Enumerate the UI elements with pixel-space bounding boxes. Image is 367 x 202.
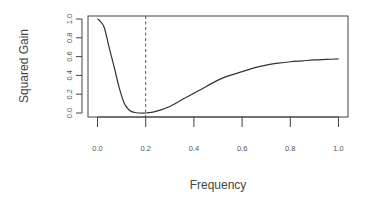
x-axis-title: Frequency	[190, 178, 247, 192]
y-tick-label: 0.2	[65, 89, 74, 99]
y-tick-label: 0.0	[65, 108, 74, 118]
plot-frame	[88, 16, 348, 117]
x-tick-label: 0.2	[140, 144, 150, 153]
y-tick-label: 0.6	[65, 51, 74, 61]
x-tick-label: 0.4	[189, 144, 199, 153]
squared-gain-chart: Squared Gain Frequency 0.00.20.40.60.81.…	[0, 0, 367, 202]
y-tick-label: 0.4	[65, 70, 74, 80]
x-tick-label: 1.0	[333, 144, 343, 153]
x-tick-label: 0.0	[92, 144, 102, 153]
y-tick-label: 0.8	[65, 33, 74, 43]
y-axis-title: Squared Gain	[17, 29, 31, 103]
x-tick-label: 0.6	[237, 144, 247, 153]
x-axis: 0.00.20.40.60.81.0	[92, 117, 343, 153]
x-tick-label: 0.8	[285, 144, 295, 153]
y-tick-label: 1.0	[65, 14, 74, 24]
y-axis-title-group: Squared Gain	[17, 29, 31, 103]
y-axis: 0.00.20.40.60.81.0	[65, 14, 83, 118]
gain-curve	[98, 19, 339, 113]
